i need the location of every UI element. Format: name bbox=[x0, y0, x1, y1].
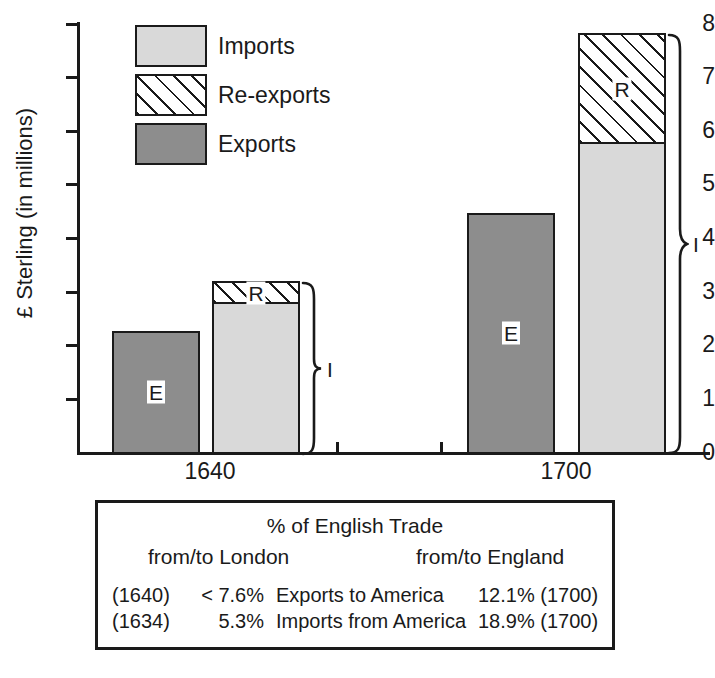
y-tick-3 bbox=[66, 291, 79, 294]
bar-label-exports-1700: E bbox=[502, 322, 520, 345]
legend-swatch-reexports bbox=[135, 74, 207, 116]
plot-area: £ Sterling (in millions) 8 7 6 5 4 3 2 1… bbox=[0, 0, 715, 495]
bar-imports-1640 bbox=[212, 302, 300, 454]
y-tick-5 bbox=[66, 183, 79, 186]
x-tick-1640 bbox=[336, 442, 339, 453]
legend-label-reexports: Re-exports bbox=[218, 82, 330, 108]
y-tick-2 bbox=[66, 344, 79, 347]
table-header-london: from/to London bbox=[148, 545, 289, 569]
legend-label-exports: Exports bbox=[218, 131, 296, 157]
legend-label-imports: Imports bbox=[218, 33, 295, 59]
row-category: Imports from America bbox=[276, 609, 496, 633]
row-year-left: (1640) bbox=[112, 583, 184, 607]
x-tick-label-1640: 1640 bbox=[160, 458, 260, 484]
imports-brace-label-1640: I bbox=[327, 359, 333, 380]
y-axis-title: £ Sterling (in millions) bbox=[12, 33, 38, 393]
bar-label-exports-1640: E bbox=[147, 381, 165, 404]
x-tick-label-1700: 1700 bbox=[516, 458, 616, 484]
y-tick-6 bbox=[66, 130, 79, 133]
y-tick-8 bbox=[66, 23, 79, 26]
row-year-left: (1634) bbox=[112, 609, 184, 633]
curly-brace-icon bbox=[667, 33, 689, 456]
y-tick-1 bbox=[66, 398, 79, 401]
y-tick-7 bbox=[66, 76, 79, 79]
x-tick-1700 bbox=[440, 442, 443, 453]
legend-swatch-exports bbox=[135, 123, 207, 165]
curly-brace-icon bbox=[301, 281, 323, 456]
trade-stats-box: % of English Trade from/to London from/t… bbox=[95, 500, 615, 650]
table-title: % of English Trade bbox=[98, 514, 612, 538]
imports-brace-1640 bbox=[301, 281, 323, 456]
table-row: (1640) < 7.6% Exports to America 12.1% (… bbox=[98, 583, 612, 607]
bar-imports-1700 bbox=[578, 142, 666, 454]
imports-brace-1700 bbox=[667, 33, 689, 456]
row-pct-left: 5.3% bbox=[186, 609, 264, 633]
row-pct-right: 18.9% (1700) bbox=[478, 609, 613, 633]
bar-label-reexports-1640: R bbox=[246, 282, 265, 305]
table-row: (1634) 5.3% Imports from America 18.9% (… bbox=[98, 609, 612, 633]
table-header-england: from/to England bbox=[416, 545, 564, 569]
row-category: Exports to America bbox=[276, 583, 496, 607]
y-tick-label-8: 8 bbox=[669, 12, 715, 35]
y-tick-4 bbox=[66, 237, 79, 240]
imports-brace-label-1700: I bbox=[693, 234, 699, 255]
row-pct-right: 12.1% (1700) bbox=[478, 583, 613, 607]
row-pct-left: < 7.6% bbox=[186, 583, 264, 607]
legend-swatch-imports bbox=[135, 25, 207, 67]
chart-figure: £ Sterling (in millions) 8 7 6 5 4 3 2 1… bbox=[0, 0, 715, 678]
bar-label-reexports-1700: R bbox=[612, 78, 631, 101]
